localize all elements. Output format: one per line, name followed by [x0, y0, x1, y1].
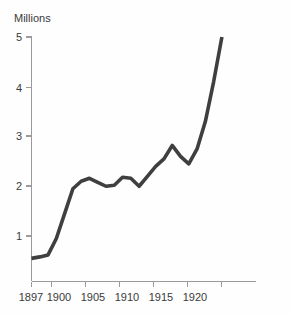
x-axis: [32, 282, 257, 288]
x-tick-label: 1905: [81, 291, 105, 303]
line-chart: Millions 5 4 3 2 1 1897: [0, 0, 291, 314]
y-tick-label: 2: [16, 180, 22, 192]
chart-figure: Millions 5 4 3 2 1 1897: [0, 0, 291, 314]
x-axis-tick-labels: 1897 1900 1905 1910 1915 1920: [19, 291, 207, 303]
x-tick-label: 1915: [149, 291, 173, 303]
x-tick-label: 1900: [47, 291, 71, 303]
y-tick-label: 1: [16, 230, 22, 242]
y-axis-title: Millions: [14, 12, 51, 24]
y-tick-label: 3: [16, 130, 22, 142]
data-series-line: [32, 37, 222, 258]
x-tick-label: 1920: [183, 291, 207, 303]
y-tick-label: 5: [16, 31, 22, 43]
y-axis: [26, 36, 32, 281]
x-tick-label: 1910: [115, 291, 139, 303]
x-tick-label: 1897: [19, 291, 43, 303]
y-tick-label: 4: [16, 82, 22, 94]
y-axis-tick-labels: 5 4 3 2 1: [16, 31, 22, 242]
